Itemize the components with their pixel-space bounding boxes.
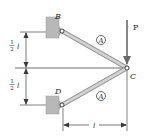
- dimension-label-upper: 1 2 l: [10, 39, 20, 52]
- point-label-d: D: [54, 87, 62, 96]
- member-dc: [62, 68, 127, 105]
- svg-text:l: l: [17, 82, 19, 90]
- material-tag-lower: A: [97, 92, 106, 102]
- member-bc: [62, 31, 127, 68]
- pin-d: [60, 103, 64, 107]
- svg-text:A: A: [97, 93, 103, 101]
- diagram-canvas: P B C D A A 1 2 l 1 2 l l: [0, 0, 147, 138]
- svg-text:A: A: [97, 37, 103, 45]
- point-label-c: C: [130, 72, 136, 81]
- material-tag-upper: A: [97, 36, 106, 46]
- dimension-label-horizontal: l: [93, 122, 95, 130]
- dimension-label-lower: 1 2 l: [10, 78, 20, 91]
- point-label-b: B: [54, 12, 61, 21]
- svg-text:1: 1: [10, 78, 14, 84]
- load-arrow-head: [123, 56, 131, 65]
- truss-diagram: P B C D A A 1 2 l 1 2 l l: [0, 0, 147, 138]
- svg-text:1: 1: [10, 39, 14, 45]
- pin-c: [125, 66, 129, 70]
- load-label: P: [133, 23, 139, 32]
- svg-text:2: 2: [10, 85, 14, 91]
- svg-text:l: l: [17, 43, 19, 51]
- pin-b: [60, 29, 64, 33]
- svg-text:2: 2: [10, 46, 14, 52]
